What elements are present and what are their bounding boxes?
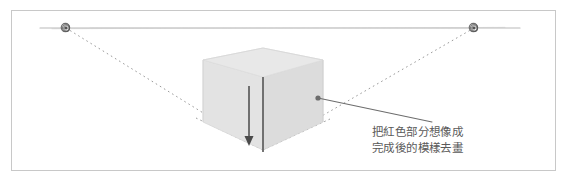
left-vanishing-point	[65, 27, 68, 30]
instruction-note-line-1: 把紅色部分想像成	[372, 124, 463, 140]
horizon-group	[40, 27, 520, 28]
right-vanishing-point	[473, 27, 476, 30]
instruction-note: 把紅色部分想像成 完成後的模樣去畫	[372, 124, 463, 156]
instruction-note-line-2: 完成後的模樣去畫	[372, 140, 463, 156]
figure-root: 把紅色部分想像成 完成後的模樣去畫	[0, 0, 568, 182]
perspective-diagram-canvas	[0, 0, 568, 182]
